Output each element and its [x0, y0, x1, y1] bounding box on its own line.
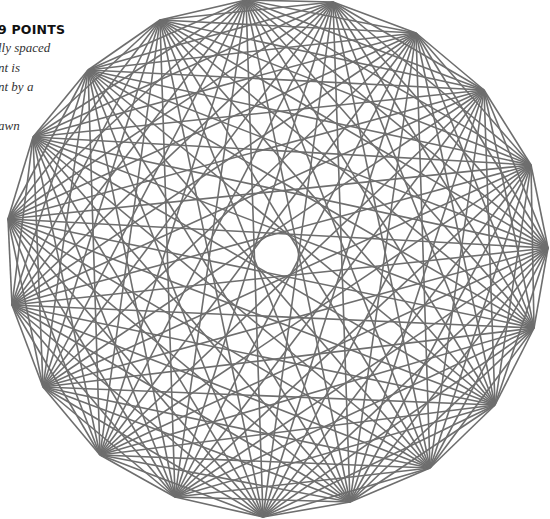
graph-edge: [246, 0, 333, 2]
graph-edge: [12, 305, 100, 455]
graph-edge: [88, 70, 531, 165]
graph-edge: [333, 2, 416, 33]
caption-title: 9 POINTS: [0, 23, 118, 37]
caption-line: nt by a: [0, 77, 118, 97]
graph-edge: [100, 455, 263, 517]
graph-edge: [263, 90, 484, 517]
graph-edge: [246, 0, 548, 248]
caption: 9 POINTS lly spaced nt is nt by a awn: [0, 23, 118, 136]
graph-edge: [43, 387, 263, 517]
caption-line: awn: [0, 116, 118, 136]
graph-edge: [430, 248, 548, 468]
caption-line: nt is: [0, 58, 118, 78]
caption-line: [0, 97, 118, 117]
graph-edge: [100, 165, 531, 455]
caption-line: lly spaced: [0, 38, 118, 58]
caption-body: lly spaced nt is nt by a awn: [0, 38, 118, 136]
graph-edge: [246, 0, 495, 405]
